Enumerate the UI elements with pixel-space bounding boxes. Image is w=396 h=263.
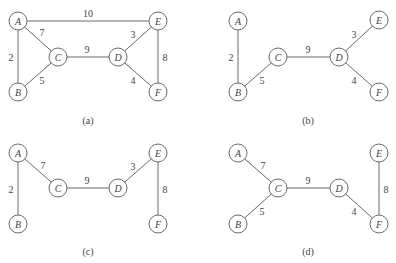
node-label: A [14, 148, 22, 159]
node-label: D [334, 52, 343, 63]
node-A: A [229, 12, 247, 30]
edge-weight-E-F: 8 [163, 52, 168, 63]
edge-weight-B-C: 5 [260, 206, 265, 217]
edge-weight-D-E: 3 [352, 29, 357, 40]
node-label: F [154, 87, 162, 98]
edge-weight-C-D: 9 [85, 175, 90, 186]
edge-weight-C-D: 9 [306, 175, 311, 186]
node-label: B [235, 219, 241, 230]
graph-figure: 102759348ABCDEF(a)25934ABCDEF(b)27938ABC… [0, 0, 396, 263]
edge-weight-A-C: 7 [261, 160, 266, 171]
edge-weight-D-E: 3 [131, 161, 136, 172]
node-E: E [370, 11, 388, 29]
edge-weight-D-F: 4 [352, 75, 357, 86]
node-label: E [375, 15, 382, 26]
node-label: F [375, 219, 383, 230]
node-C: C [269, 179, 287, 197]
node-label: B [15, 219, 21, 230]
graph-b: 25934ABCDEF(b) [229, 11, 389, 127]
node-label: C [55, 183, 62, 194]
edge-weight-A-C: 7 [40, 27, 45, 38]
node-label: E [154, 16, 161, 27]
edge-weight-D-E: 3 [131, 29, 136, 40]
node-label: C [275, 52, 282, 63]
node-D: D [330, 48, 348, 66]
edge-weight-C-D: 9 [306, 44, 311, 55]
node-D: D [109, 179, 127, 197]
node-D: D [330, 179, 348, 197]
edge-weight-A-E: 10 [83, 8, 93, 19]
caption-c: (c) [82, 246, 93, 258]
node-label: E [154, 148, 161, 159]
edge-weight-B-C: 5 [260, 75, 265, 86]
node-C: C [49, 48, 67, 66]
node-A: A [9, 12, 27, 30]
node-label: A [14, 16, 22, 27]
node-F: F [149, 83, 167, 101]
node-F: F [149, 215, 167, 233]
edge-weight-A-B: 2 [229, 52, 234, 63]
node-label: F [154, 219, 162, 230]
graph-c: 27938ABCDEF(c) [9, 144, 168, 258]
edge-weight-B-C: 5 [40, 75, 45, 86]
graph-a: 102759348ABCDEF(a) [9, 8, 168, 127]
edge-weight-A-C: 7 [41, 160, 46, 171]
caption-b: (b) [302, 115, 314, 127]
node-label: D [334, 183, 343, 194]
node-E: E [149, 12, 167, 30]
node-label: E [375, 148, 382, 159]
node-label: B [235, 87, 241, 98]
node-label: D [113, 52, 122, 63]
edge-weight-E-F: 8 [163, 184, 168, 195]
node-label: F [375, 87, 383, 98]
node-label: A [234, 16, 242, 27]
edge-weight-A-B: 2 [9, 52, 14, 63]
graph-d: 75948ABCDEF(d) [229, 144, 389, 258]
node-F: F [370, 83, 388, 101]
node-B: B [9, 83, 27, 101]
edge-weight-A-B: 2 [9, 184, 14, 195]
node-label: B [15, 87, 21, 98]
node-A: A [9, 144, 27, 162]
node-E: E [370, 144, 388, 162]
edge-weight-C-D: 9 [85, 44, 90, 55]
node-label: C [275, 183, 282, 194]
node-F: F [370, 215, 388, 233]
edge-weight-D-F: 4 [352, 206, 357, 217]
edge-weight-E-F: 8 [384, 184, 389, 195]
node-C: C [269, 48, 287, 66]
caption-a: (a) [82, 115, 93, 127]
node-E: E [149, 144, 167, 162]
node-B: B [9, 215, 27, 233]
node-label: D [113, 183, 122, 194]
edge-weight-D-F: 4 [131, 75, 136, 86]
node-B: B [229, 215, 247, 233]
node-A: A [229, 144, 247, 162]
node-C: C [49, 179, 67, 197]
node-label: A [234, 148, 242, 159]
node-B: B [229, 83, 247, 101]
node-D: D [109, 48, 127, 66]
caption-d: (d) [302, 246, 314, 258]
node-label: C [55, 52, 62, 63]
